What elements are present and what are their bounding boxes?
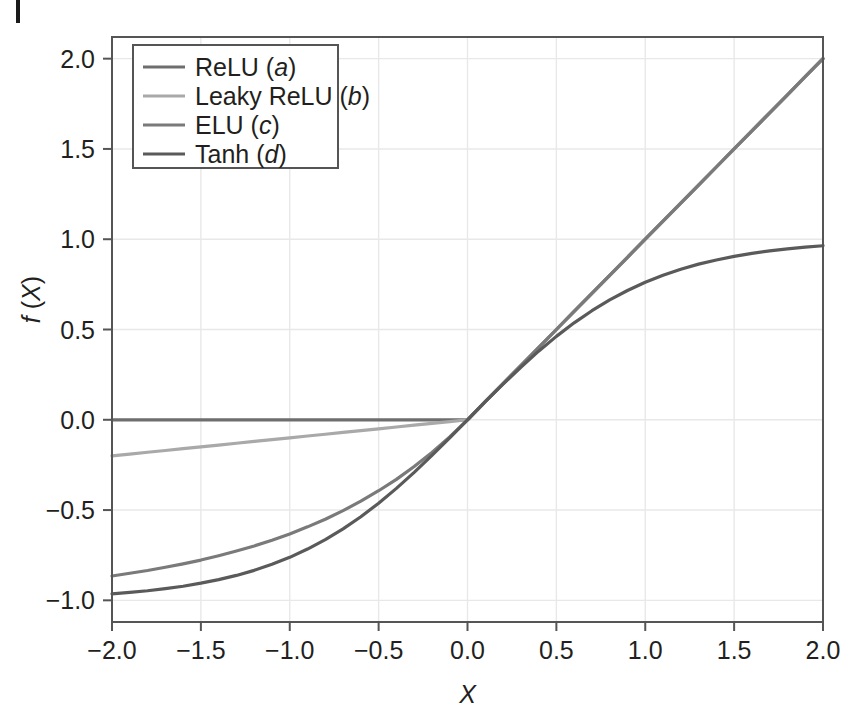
page-edge-artifact [16, 0, 20, 23]
x-tick-label: 1.0 [628, 636, 663, 664]
x-tick-label: 0.0 [450, 636, 485, 664]
y-tick-label: 1.0 [60, 225, 95, 253]
x-tick-label: 2.0 [806, 636, 841, 664]
y-tick-label: −0.5 [46, 496, 95, 524]
x-tick-label: 0.5 [539, 636, 574, 664]
legend-label: Tanh (d) [195, 140, 287, 168]
x-tick-label: 1.5 [717, 636, 752, 664]
y-tick-label: −1.0 [46, 586, 95, 614]
y-tick-label: 0.0 [60, 406, 95, 434]
y-axis-title: f (X) [17, 276, 45, 323]
x-axis-title: X [458, 680, 477, 708]
y-tick-label: 1.5 [60, 135, 95, 163]
y-tick-label: 2.0 [60, 45, 95, 73]
chart-legend[interactable]: ReLU (a)Leaky ReLU (b)ELU (c)Tanh (d) [133, 45, 370, 168]
activation-functions-figure: −2.0−1.5−1.0−0.50.00.51.01.52.02.01.51.0… [0, 0, 868, 717]
legend-label: Leaky ReLU (b) [195, 82, 370, 110]
x-tick-label: −1.5 [176, 636, 225, 664]
legend-label: ELU (c) [195, 111, 280, 139]
y-tick-label: 0.5 [60, 316, 95, 344]
x-tick-label: −2.0 [87, 636, 136, 664]
x-tick-label: −0.5 [354, 636, 403, 664]
legend-label: ReLU (a) [195, 53, 296, 81]
x-tick-label: −1.0 [265, 636, 314, 664]
activation-functions-chart: −2.0−1.5−1.0−0.50.00.51.01.52.02.01.51.0… [0, 0, 868, 717]
